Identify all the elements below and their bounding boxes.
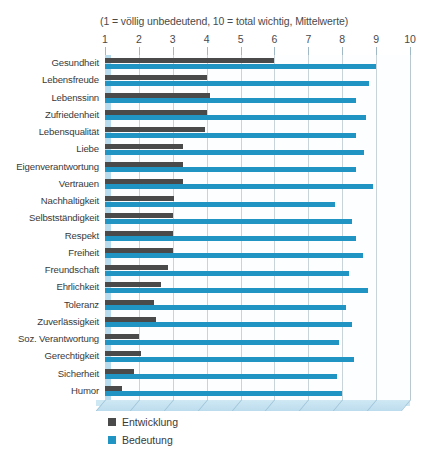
category-label: Respekt: [0, 230, 99, 241]
bar-entwicklung: [105, 282, 161, 287]
bar-bedeutung: [105, 340, 339, 345]
bar-row: [105, 124, 410, 141]
bar-entwicklung: [105, 213, 173, 218]
category-label: Toleranz: [0, 299, 99, 310]
bar-row: [105, 159, 410, 176]
legend-swatch-icon: [108, 418, 116, 426]
category-label: Zuverlässigkeit: [0, 316, 99, 327]
bar-entwicklung: [105, 369, 134, 374]
bar-bedeutung: [105, 271, 349, 276]
floor-tick-3: [164, 400, 174, 411]
bar-bedeutung: [105, 150, 364, 155]
category-label: Gerechtigkeit: [0, 350, 99, 361]
bar-bedeutung: [105, 98, 356, 103]
bar-rows: [105, 55, 410, 400]
category-label: Freiheit: [0, 247, 99, 258]
x-tick-mark-9: [376, 47, 377, 55]
bar-row: [105, 72, 410, 89]
x-tick-mark-4: [207, 47, 208, 55]
x-tick-mark-7: [308, 47, 309, 55]
floor-tick-5: [231, 400, 241, 411]
legend-label-entwicklung: Entwicklung: [122, 416, 178, 428]
bar-entwicklung: [105, 75, 207, 80]
x-tick-mark-3: [173, 47, 174, 55]
category-label: Zufriedenheit: [0, 109, 99, 120]
floor-slab: [96, 400, 410, 411]
category-label: Ehrlichkeit: [0, 281, 99, 292]
bar-entwicklung: [105, 351, 141, 356]
category-label: Gesundheit: [0, 57, 99, 68]
bar-bedeutung: [105, 64, 376, 69]
legend-item-bedeutung: Bedeutung: [108, 432, 178, 447]
bar-entwicklung: [105, 334, 139, 339]
x-tick-mark-6: [274, 47, 275, 55]
bar-entwicklung: [105, 196, 174, 201]
x-tick-mark-2: [139, 47, 140, 55]
bar-bedeutung: [105, 133, 356, 138]
bar-entwicklung: [105, 265, 168, 270]
x-tick-label-10: 10: [404, 33, 416, 45]
x-tick-label-1: 1: [102, 33, 108, 45]
x-tick-mark-10: [410, 47, 411, 55]
chart-subtitle: (1 = völlig unbedeutend, 10 = total wich…: [100, 15, 420, 27]
x-tick-mark-8: [342, 47, 343, 55]
floor-tick-9: [367, 400, 377, 411]
bar-entwicklung: [105, 386, 122, 391]
x-tick-label-8: 8: [339, 33, 345, 45]
plot-area: [105, 55, 410, 400]
x-tick-label-9: 9: [373, 33, 379, 45]
bar-bedeutung: [105, 357, 354, 362]
chart-legend: Entwicklung Bedeutung: [108, 414, 178, 450]
bar-entwicklung: [105, 162, 183, 167]
bar-row: [105, 279, 410, 296]
category-label: Lebensqualität: [0, 126, 99, 137]
bar-row: [105, 297, 410, 314]
bar-row: [105, 245, 410, 262]
bar-bedeutung: [105, 167, 356, 172]
bar-entwicklung: [105, 93, 210, 98]
bar-row: [105, 107, 410, 124]
bar-entwicklung: [105, 179, 183, 184]
x-tick-label-7: 7: [305, 33, 311, 45]
x-tick-label-5: 5: [238, 33, 244, 45]
category-label: Humor: [0, 385, 99, 396]
x-tick-label-2: 2: [136, 33, 142, 45]
bar-row: [105, 383, 410, 400]
bar-entwicklung: [105, 231, 173, 236]
legend-item-entwicklung: Entwicklung: [108, 414, 178, 429]
legend-label-bedeutung: Bedeutung: [122, 434, 173, 446]
bar-bedeutung: [105, 305, 346, 310]
category-label: Soz. Verantwortung: [0, 333, 99, 344]
gridline-10: [410, 55, 411, 400]
floor-tick-7: [299, 400, 309, 411]
bar-row: [105, 348, 410, 365]
floor-tick-6: [265, 400, 275, 411]
x-tick-label-4: 4: [204, 33, 210, 45]
bar-row: [105, 366, 410, 383]
bar-bedeutung: [105, 253, 363, 258]
bar-row: [105, 90, 410, 107]
bar-entwicklung: [105, 110, 207, 115]
category-label: Lebenssinn: [0, 92, 99, 103]
category-label: Freundschaft: [0, 264, 99, 275]
bar-row: [105, 228, 410, 245]
floor-tick-4: [197, 400, 207, 411]
bar-bedeutung: [105, 219, 352, 224]
bar-entwicklung: [105, 127, 205, 132]
bar-row: [105, 55, 410, 72]
bar-bedeutung: [105, 236, 356, 241]
category-label: Eigenverantwortung: [0, 161, 99, 172]
category-label: Lebensfreude: [0, 74, 99, 85]
bar-entwicklung: [105, 144, 183, 149]
category-label: Selbstständigkeit: [0, 212, 99, 223]
bar-entwicklung: [105, 317, 156, 322]
floor-tick-2: [130, 400, 140, 411]
legend-swatch-icon: [108, 436, 116, 444]
bar-row: [105, 176, 410, 193]
bar-row: [105, 210, 410, 227]
category-label: Liebe: [0, 143, 99, 154]
value-survey-bar-chart: (1 = völlig unbedeutend, 10 = total wich…: [0, 0, 425, 452]
bar-bedeutung: [105, 322, 352, 327]
bar-bedeutung: [105, 115, 366, 120]
x-axis-top: 12345678910: [0, 33, 425, 47]
